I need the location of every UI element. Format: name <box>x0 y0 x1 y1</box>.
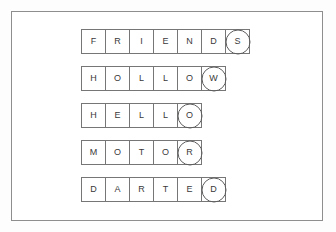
letter-cell[interactable]: H <box>81 103 106 128</box>
letter-glyph: H <box>90 111 97 120</box>
letter-cell[interactable]: R <box>105 29 130 54</box>
word-row: HOLLOW <box>81 66 250 91</box>
letter-cell[interactable]: E <box>153 29 178 54</box>
letter-cell[interactable]: O <box>177 66 202 91</box>
letter-cell[interactable]: D <box>201 29 226 54</box>
letter-glyph: I <box>140 37 143 46</box>
word-row: FRIENDS <box>81 29 250 54</box>
letter-glyph: L <box>163 111 168 120</box>
letter-glyph: T <box>139 148 145 157</box>
letter-glyph: M <box>90 148 98 157</box>
letter-cell[interactable]: M <box>81 140 106 165</box>
word-row: MOTOR <box>81 140 250 165</box>
letter-cell[interactable]: T <box>153 177 178 202</box>
letter-glyph: T <box>163 185 169 194</box>
letter-glyph: D <box>210 37 217 46</box>
letter-glyph: A <box>114 185 120 194</box>
letter-cell[interactable]: O <box>105 140 130 165</box>
letter-cell[interactable]: N <box>177 29 202 54</box>
letter-glyph: H <box>90 74 97 83</box>
letter-cell-circled[interactable]: S <box>225 29 250 54</box>
letter-glyph: S <box>234 37 240 46</box>
letter-glyph: O <box>114 148 121 157</box>
letter-cell[interactable]: O <box>105 66 130 91</box>
letter-cell[interactable]: R <box>129 177 154 202</box>
word-row-list: FRIENDSHOLLOWHELLOMOTORDARTED <box>81 29 250 202</box>
letter-cell[interactable]: H <box>81 66 106 91</box>
letter-glyph: L <box>139 74 144 83</box>
letter-glyph: E <box>114 111 120 120</box>
worksheet-frame: FRIENDSHOLLOWHELLOMOTORDARTED <box>11 11 323 221</box>
letter-glyph: F <box>91 37 97 46</box>
word-row: DARTED <box>81 177 250 202</box>
letter-glyph: R <box>114 37 121 46</box>
letter-glyph: D <box>210 185 217 194</box>
letter-glyph: R <box>138 185 145 194</box>
letter-glyph: E <box>162 37 168 46</box>
worksheet-canvas: FRIENDSHOLLOWHELLOMOTORDARTED <box>0 0 336 232</box>
letter-cell[interactable]: L <box>129 66 154 91</box>
letter-cell[interactable]: L <box>153 66 178 91</box>
letter-cell-circled[interactable]: O <box>177 103 202 128</box>
letter-cell[interactable]: T <box>129 140 154 165</box>
letter-glyph: E <box>186 185 192 194</box>
letter-cell[interactable]: F <box>81 29 106 54</box>
letter-glyph: D <box>90 185 97 194</box>
letter-cell-circled[interactable]: R <box>177 140 202 165</box>
letter-glyph: L <box>163 74 168 83</box>
letter-glyph: O <box>114 74 121 83</box>
letter-glyph: O <box>186 74 193 83</box>
letter-glyph: O <box>186 111 193 120</box>
word-row: HELLO <box>81 103 250 128</box>
letter-glyph: O <box>162 148 169 157</box>
letter-cell[interactable]: L <box>153 103 178 128</box>
letter-glyph: L <box>139 111 144 120</box>
letter-cell-circled[interactable]: W <box>201 66 226 91</box>
letter-cell[interactable]: L <box>129 103 154 128</box>
letter-cell-circled[interactable]: D <box>201 177 226 202</box>
letter-cell[interactable]: D <box>81 177 106 202</box>
letter-cell[interactable]: O <box>153 140 178 165</box>
letter-glyph: R <box>186 148 193 157</box>
letter-cell[interactable]: E <box>105 103 130 128</box>
letter-glyph: N <box>186 37 193 46</box>
letter-cell[interactable]: I <box>129 29 154 54</box>
letter-glyph: W <box>209 74 218 83</box>
letter-cell[interactable]: E <box>177 177 202 202</box>
letter-cell[interactable]: A <box>105 177 130 202</box>
